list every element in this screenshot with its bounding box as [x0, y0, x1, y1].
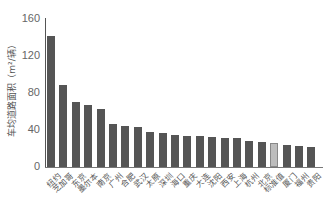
- bar-10: [171, 135, 179, 167]
- bar-20: [295, 146, 303, 167]
- bar-19: [283, 145, 291, 167]
- bar-0: [47, 36, 55, 167]
- y-tick-label: 120: [10, 49, 40, 61]
- bar-15: [233, 138, 241, 167]
- y-axis-line: [45, 18, 46, 167]
- bar-1: [59, 85, 67, 167]
- bar-21: [307, 147, 315, 167]
- bar-16: [245, 141, 253, 167]
- y-tick-label: 40: [10, 123, 40, 135]
- bar-17: [258, 142, 266, 167]
- y-tick-label: 80: [10, 86, 40, 98]
- bar-18: [270, 143, 278, 167]
- bar-8: [146, 132, 154, 167]
- bar-chart: 车均道路面积（m²/辆） 04080120160 纽约芝加哥东京墨尔本南京广州合…: [0, 0, 327, 200]
- bar-14: [221, 138, 229, 167]
- y-tick-label: 0: [10, 160, 40, 172]
- bar-7: [134, 127, 142, 167]
- bar-5: [109, 124, 117, 167]
- y-tick-label: 160: [10, 12, 40, 24]
- bar-9: [159, 133, 167, 167]
- x-tick-label: 贵阳: [304, 170, 323, 189]
- bar-3: [84, 105, 92, 167]
- bar-12: [196, 136, 204, 167]
- bar-4: [97, 109, 105, 167]
- bar-11: [183, 136, 191, 167]
- bar-2: [72, 102, 80, 167]
- x-axis-line: [45, 167, 323, 168]
- bar-13: [208, 137, 216, 167]
- bar-6: [121, 126, 129, 167]
